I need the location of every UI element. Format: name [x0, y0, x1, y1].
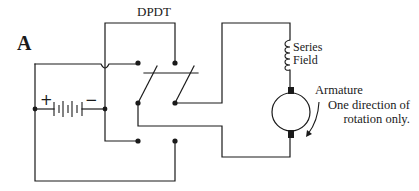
armature-icon — [272, 93, 310, 131]
switch-blade-left — [138, 66, 157, 103]
wire-dpdt-bracket — [105, 23, 175, 141]
series-field-line2: Field — [293, 54, 322, 67]
wire-armature-return — [138, 103, 290, 157]
dpdt-label: DPDT — [137, 5, 171, 18]
wire-to-field — [175, 23, 290, 103]
coil-icon — [285, 40, 290, 70]
armature-label: Armature — [315, 84, 363, 97]
battery-plus-sign: + — [40, 93, 53, 108]
battery-minus-sign: − — [85, 93, 98, 108]
rotation-note-line2: rotation only. — [328, 112, 410, 126]
wire-top — [35, 64, 138, 68]
brush-bottom — [288, 130, 294, 138]
figure-label: A — [17, 33, 31, 53]
rotation-note-line1: One direction of — [328, 98, 410, 112]
series-field-label: Series Field — [293, 41, 322, 67]
battery-icon — [54, 101, 82, 117]
rotation-note: One direction of rotation only. — [328, 98, 410, 126]
brush-top — [288, 87, 294, 94]
switch-blade-right — [175, 66, 194, 103]
